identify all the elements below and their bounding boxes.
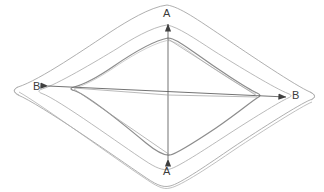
outer-rim-thickness-lower-left: [19, 92, 170, 189]
technical-drawing: [0, 0, 324, 192]
leader-cavity-right-diagonal: [168, 39, 257, 96]
outer-rim-contour: [14, 5, 314, 187]
section-label-a-bottom: A: [163, 166, 170, 177]
section-label-b-right: B: [292, 90, 299, 101]
section-label-b-left: B: [33, 81, 40, 92]
middle-rim-group: [39, 25, 291, 170]
section-label-a-top: A: [163, 8, 170, 19]
outer-rim-thickness-corner-right: [310, 92, 315, 100]
outer-rim-group: [14, 5, 314, 189]
diagram-canvas: A A B B: [0, 0, 324, 192]
middle-rim-contour: [39, 25, 291, 170]
